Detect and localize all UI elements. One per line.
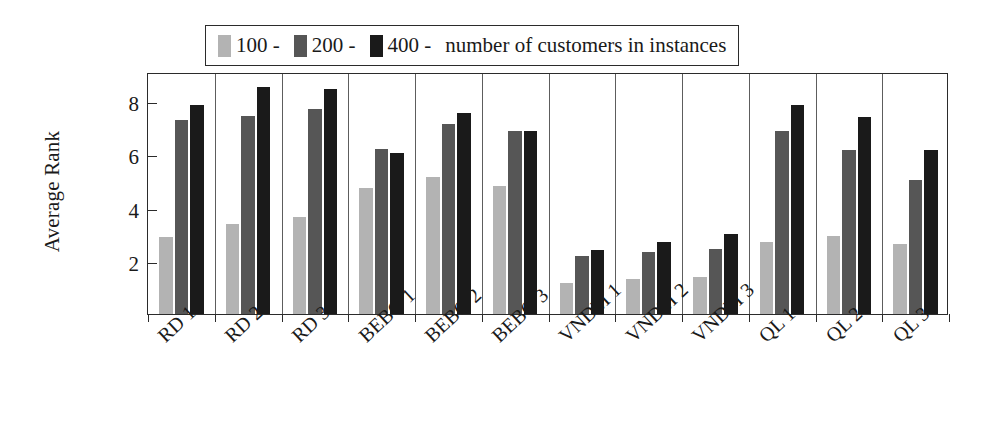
legend-entries: 100 -200 -400 -	[218, 35, 445, 57]
group-separator	[749, 74, 750, 314]
group-separator	[215, 74, 216, 314]
group-separator	[615, 74, 616, 314]
bar	[324, 89, 338, 314]
group-separator	[682, 74, 683, 314]
y-tick-mark: 4	[148, 210, 157, 211]
bar	[626, 279, 640, 314]
x-tick-mark	[682, 314, 683, 322]
y-axis-title: Average Rank	[40, 77, 65, 307]
group-separator	[415, 74, 416, 314]
bar	[293, 217, 307, 314]
bar	[909, 180, 923, 314]
x-tick-mark	[816, 314, 817, 322]
bar	[375, 149, 389, 314]
bar	[159, 237, 173, 314]
y-tick-mark: 2	[148, 263, 157, 264]
group-separator	[549, 74, 550, 314]
legend-entry: 400 -	[370, 35, 446, 57]
bar	[560, 283, 574, 314]
y-tick-label: 6	[129, 147, 140, 168]
bar	[426, 177, 440, 314]
bar	[359, 188, 373, 314]
group-separator	[482, 74, 483, 314]
x-tick-mark	[949, 314, 950, 322]
x-tick-mark	[415, 314, 416, 322]
bar	[257, 87, 271, 314]
bar	[226, 224, 240, 314]
bar	[693, 277, 707, 314]
bar	[760, 242, 774, 314]
y-tick-label: 4	[129, 200, 140, 221]
bar	[175, 120, 189, 314]
y-tick-label: 2	[129, 253, 140, 274]
x-tick-mark	[549, 314, 550, 322]
x-tick-mark	[348, 314, 349, 322]
bar	[842, 150, 856, 314]
x-tick-mark	[882, 314, 883, 322]
x-tick-mark	[215, 314, 216, 322]
x-tick-mark	[749, 314, 750, 322]
chart-legend: 100 -200 -400 - number of customers in i…	[205, 25, 739, 66]
bar	[858, 117, 872, 314]
x-tick-mark	[148, 314, 149, 322]
legend-entry: 200 -	[294, 35, 370, 57]
y-tick-label: 8	[129, 94, 140, 115]
bar	[308, 109, 322, 314]
plot-area: 2468	[147, 73, 948, 315]
bar	[241, 116, 255, 314]
x-tick-mark	[282, 314, 283, 322]
y-tick-mark: 8	[148, 103, 157, 104]
y-tick-mark: 6	[148, 156, 157, 157]
legend-label: 100 -	[236, 35, 280, 56]
x-tick-mark	[482, 314, 483, 322]
bar	[924, 150, 938, 314]
legend-swatch	[370, 35, 383, 57]
legend-tail-text: number of customers in instances	[445, 35, 726, 56]
group-separator	[282, 74, 283, 314]
bar-chart-figure: Average Rank 2468 RD 1RD 2RD 3BEBO 1BEBO…	[0, 0, 996, 445]
legend-label: 400 -	[388, 35, 432, 56]
bar	[442, 124, 456, 314]
bar	[827, 236, 841, 314]
bar	[508, 131, 522, 314]
bar	[893, 244, 907, 314]
legend-swatch	[218, 35, 231, 57]
bar	[190, 105, 204, 314]
legend-entry: 100 -	[218, 35, 294, 57]
bar	[493, 186, 507, 314]
group-separator	[882, 74, 883, 314]
group-separator	[348, 74, 349, 314]
legend-label: 200 -	[312, 35, 356, 56]
bar	[775, 131, 789, 314]
group-separator	[816, 74, 817, 314]
legend-swatch	[294, 35, 307, 57]
bar	[791, 105, 805, 314]
x-tick-mark	[615, 314, 616, 322]
